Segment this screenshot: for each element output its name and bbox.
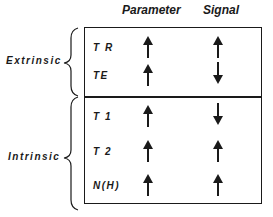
grouping-braces — [0, 0, 84, 217]
column-header-signal: Signal — [203, 3, 239, 17]
down-arrow-icon — [212, 103, 224, 125]
extrinsic-brace — [64, 28, 78, 96]
up-arrow-icon — [142, 140, 154, 162]
up-arrow-icon — [142, 36, 154, 58]
down-arrow-icon — [212, 62, 224, 84]
row-label-t1: T 1 — [93, 111, 112, 122]
up-arrow-icon — [142, 174, 154, 196]
row-label-t2: T 2 — [93, 146, 112, 157]
intrinsic-brace — [64, 97, 78, 210]
up-arrow-icon — [212, 140, 224, 162]
up-arrow-icon — [212, 36, 224, 58]
row-label-nh: N(H) — [93, 180, 120, 191]
up-arrow-icon — [142, 64, 154, 86]
row-label-te: TE — [93, 70, 109, 81]
group-divider — [84, 96, 262, 98]
row-label-tr: T R — [93, 42, 114, 53]
up-arrow-icon — [212, 174, 224, 196]
group-label-extrinsic: Extrinsic — [6, 55, 62, 66]
up-arrow-icon — [142, 105, 154, 127]
group-label-intrinsic: Intrinsic — [8, 151, 60, 162]
column-header-parameter: Parameter — [122, 3, 181, 17]
